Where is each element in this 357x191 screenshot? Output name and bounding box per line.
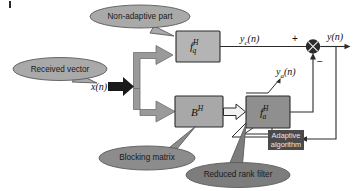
line-adaptive-output-to-sum [290,56,313,112]
line-adaptive-filter-to-algorithm-upper [244,128,268,134]
thick-signal-arrow-to-non-adaptive [134,46,174,89]
adaptive-filter-block-rect[interactable] [246,96,290,128]
arrowhead-final-output [345,44,351,50]
arrowhead-adaptive-into-sum [310,53,316,60]
scan-artifact-speck [9,1,11,8]
blocking-matrix-block-rect[interactable] [175,96,223,127]
callout-blocking-matrix-shape[interactable] [99,126,196,170]
callout-non-adaptive-part-shape[interactable] [90,5,190,36]
thick-signal-arrow-to-blocking-matrix [134,89,176,123]
sum-minus-sign: − [317,56,323,67]
input-black-arrow [108,77,134,96]
label-final-output: y(n) [327,31,343,42]
adaptive-algorithm-box-rect[interactable] [268,130,304,150]
callout-received-vector-shape[interactable] [13,58,107,84]
diagram-vector-layer [0,0,357,191]
label-non-adaptive-output: yc(n) [240,33,259,47]
label-adaptive-output: ya(n) [276,66,296,80]
sum-plus-sign: + [292,33,298,44]
non-adaptive-filter-block-rect[interactable] [176,31,220,62]
diagram-canvas: fHq BH fHa x(n) yc(n) ya(n) y(n) + − Non… [0,0,357,191]
hollow-arrow-blocking-to-adaptive [224,104,246,120]
label-input-signal: x(n) [91,81,107,92]
